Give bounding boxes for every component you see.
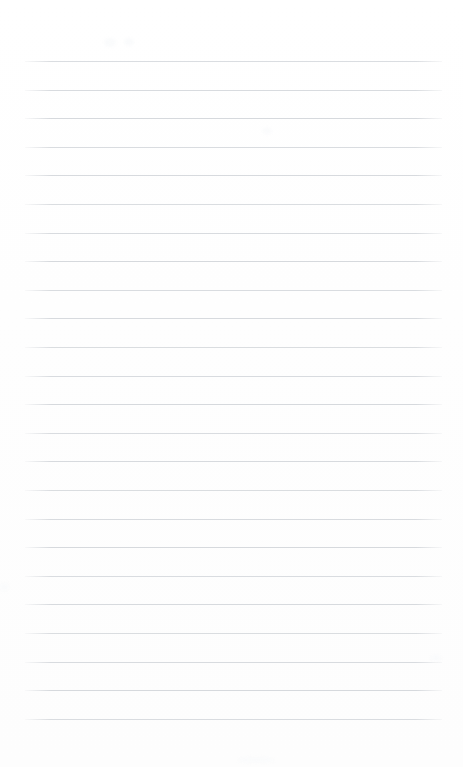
writing-area[interactable] [25, 61, 442, 739]
notebook-page [0, 0, 463, 767]
